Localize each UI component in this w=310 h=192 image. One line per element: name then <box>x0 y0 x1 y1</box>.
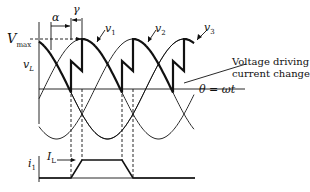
i1-label: i1 <box>28 157 36 172</box>
v1-label: v1 <box>105 22 116 37</box>
vL-label: vL <box>23 58 34 73</box>
alpha-label: α <box>52 11 59 24</box>
v3-label: v3 <box>204 21 215 36</box>
gamma-label: γ <box>73 3 80 16</box>
annotation-label: Voltage driving current change <box>232 56 310 80</box>
IL-label: IL <box>47 150 56 165</box>
vL-waveform <box>39 39 194 93</box>
theta-label: θ = ωt <box>199 83 235 96</box>
i1-waveform <box>39 160 195 178</box>
v2-label: v2 <box>155 22 166 37</box>
vmax-label: Vmax <box>7 31 31 49</box>
